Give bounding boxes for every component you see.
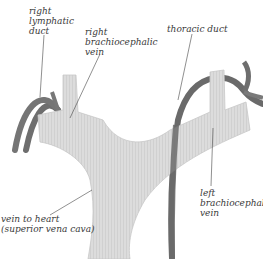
label-thoracic-duct: thoracic duct bbox=[167, 24, 228, 34]
leader-right-lymphatic-duct bbox=[40, 35, 44, 97]
label-right-lymphatic-duct: right lymphatic duct bbox=[29, 6, 74, 36]
label-vein-to-heart: vein to heart (superior vena cava) bbox=[1, 214, 95, 234]
label-right-brachiocephalic-vein: right brachiocephalic vein bbox=[85, 27, 158, 57]
leader-vena-cava bbox=[50, 190, 92, 215]
label-left-brachiocephalic-vein: left brachiocephalic vein bbox=[200, 188, 263, 218]
